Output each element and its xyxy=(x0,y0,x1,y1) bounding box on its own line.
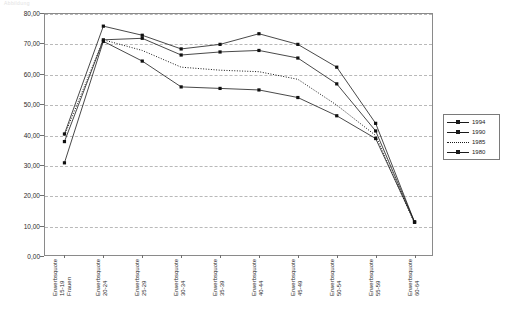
y-axis-tick-label: 60,00 xyxy=(0,70,40,77)
y-axis-tick-label: 40,00 xyxy=(0,131,40,138)
legend: 1994199019851980 xyxy=(443,114,500,160)
data-point-1990 xyxy=(335,82,338,85)
legend-item-1985[interactable]: 1985 xyxy=(446,137,497,147)
legend-label: 1985 xyxy=(470,139,485,145)
legend-swatch-icon xyxy=(446,118,470,127)
y-axis-tick-label: 30,00 xyxy=(0,161,40,168)
legend-label: 1990 xyxy=(470,129,485,135)
x-axis-tick-label: Erwerbsquote15-19Frauen xyxy=(53,259,75,296)
data-point-1980 xyxy=(218,87,221,90)
series-line-1985 xyxy=(64,40,414,224)
data-point-1980 xyxy=(63,161,66,164)
data-point-1980 xyxy=(374,137,377,140)
data-point-1990 xyxy=(180,53,183,56)
data-point-1994 xyxy=(218,43,221,46)
data-point-1980 xyxy=(413,220,416,223)
data-point-1990 xyxy=(257,49,260,52)
data-point-1994 xyxy=(374,122,377,125)
data-point-1990 xyxy=(141,37,144,40)
faint-header-text: Abbildung xyxy=(4,0,30,6)
x-axis-tick-label: Erwerbsquote40-44 xyxy=(251,259,265,296)
x-axis-tick-label: Erwerbsquote60-64 xyxy=(406,259,420,296)
data-point-1994 xyxy=(296,43,299,46)
series-lines xyxy=(45,14,434,257)
legend-item-1990[interactable]: 1990 xyxy=(446,127,497,137)
data-point-1990 xyxy=(218,50,221,53)
legend-swatch-icon xyxy=(446,128,470,137)
data-point-1994 xyxy=(180,47,183,50)
series-line-1994 xyxy=(64,26,414,222)
x-axis-tick-label: Erwerbsquote35-39 xyxy=(212,259,226,296)
series-line-1980 xyxy=(64,41,414,222)
y-axis-tick-label: 80,00 xyxy=(0,10,40,17)
data-point-1994 xyxy=(257,32,260,35)
x-axis-tick-label: Erwerbsquote50-54 xyxy=(329,259,343,296)
legend-swatch-icon xyxy=(446,148,470,157)
x-axis-tick-label: Erwerbsquote25-29 xyxy=(134,259,148,296)
y-axis-tick xyxy=(40,256,44,257)
legend-item-1980[interactable]: 1980 xyxy=(446,147,497,157)
data-point-1990 xyxy=(374,129,377,132)
y-axis-tick-label: 70,00 xyxy=(0,40,40,47)
data-point-1980 xyxy=(296,96,299,99)
y-axis-tick-label: 0,00 xyxy=(0,253,40,260)
data-point-1994 xyxy=(335,66,338,69)
legend-label: 1994 xyxy=(470,119,485,125)
legend-label: 1980 xyxy=(470,149,485,155)
data-point-1990 xyxy=(63,140,66,143)
x-axis-tick-label: Erwerbsquote55-59 xyxy=(367,259,381,296)
data-point-1980 xyxy=(180,85,183,88)
x-axis-tick-label: Erwerbsquote45-49 xyxy=(290,259,304,296)
data-point-1980 xyxy=(335,114,338,117)
data-point-1980 xyxy=(257,88,260,91)
x-axis-tick-label: Erwerbsquote30-34 xyxy=(173,259,187,296)
y-axis-tick-label: 50,00 xyxy=(0,101,40,108)
data-point-1994 xyxy=(141,34,144,37)
x-axis-tick-label: Erwerbsquote20-24 xyxy=(95,259,109,296)
legend-swatch-icon xyxy=(446,138,470,147)
data-point-1980 xyxy=(102,40,105,43)
y-axis-tick-label: 20,00 xyxy=(0,192,40,199)
legend-item-1994[interactable]: 1994 xyxy=(446,117,497,127)
data-point-1980 xyxy=(141,59,144,62)
data-point-1994 xyxy=(102,25,105,28)
data-point-1990 xyxy=(296,56,299,59)
plot-area xyxy=(44,13,433,256)
y-axis-tick-label: 10,00 xyxy=(0,222,40,229)
